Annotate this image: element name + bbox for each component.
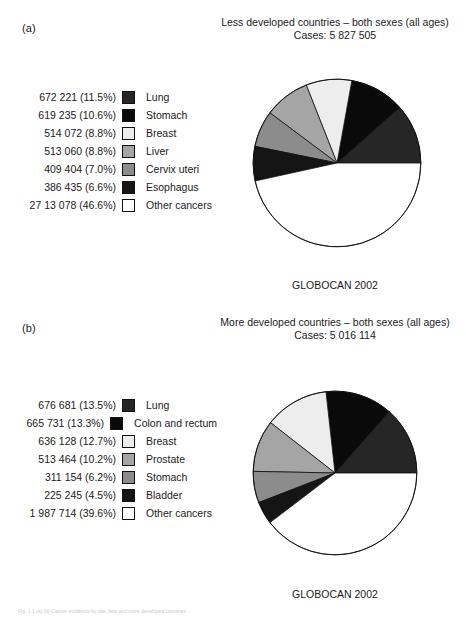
legend-swatch-icon [122, 181, 135, 194]
legend-value: 409 404 (7.0%) [12, 163, 122, 175]
legend-row: 514 072 (8.8%)Breast [12, 124, 217, 142]
legend-swatch-icon [110, 417, 123, 430]
legend-value: 636 128 (12.7%) [12, 435, 122, 447]
panel-label-b: (b) [22, 322, 36, 334]
pie-chart-a-svg [252, 78, 422, 248]
legend-value: 665 731 (13.3%) [12, 417, 110, 429]
legend-value: 514 072 (8.8%) [12, 127, 122, 139]
legend-label: Esophagus [135, 181, 199, 193]
legend-swatch-icon [122, 109, 135, 122]
legend-b: 676 681 (13.5%)Lung665 731 (13.3%)Colon … [12, 396, 217, 522]
source-label-b: GLOBOCAN 2002 [210, 588, 460, 600]
legend-swatch-icon [122, 435, 135, 448]
legend-swatch-icon [122, 453, 135, 466]
legend-row: 27 13 078 (46.6%)Other cancers [12, 196, 217, 214]
legend-value: 513 060 (8.8%) [12, 145, 122, 157]
legend-label: Breast [135, 127, 176, 139]
chart-title-a-line2: Cases: 5 827 505 [210, 29, 460, 42]
legend-value: 386 435 (6.6%) [12, 181, 122, 193]
legend-swatch-icon [122, 91, 135, 104]
legend-label: Breast [135, 435, 176, 447]
figure-caption: Fig. 1.1 (a) (b) Cancer incidence by sit… [18, 608, 458, 615]
legend-swatch-icon [122, 127, 135, 140]
panel-label-a: (a) [22, 22, 36, 34]
legend-row: 665 731 (13.3%)Colon and rectum [12, 414, 217, 432]
legend-row: 409 404 (7.0%)Cervix uteri [12, 160, 217, 178]
legend-label: Cervix uteri [135, 163, 199, 175]
pie-chart-a [252, 78, 422, 252]
chart-title-b-line1: More developed countries – both sexes (a… [220, 316, 449, 328]
chart-title-b: More developed countries – both sexes (a… [210, 316, 460, 342]
legend-row: 1 987 714 (39.6%)Other cancers [12, 504, 217, 522]
legend-value: 619 235 (10.6%) [12, 109, 122, 121]
legend-row: 513 464 (10.2%)Prostate [12, 450, 217, 468]
legend-label: Liver [135, 145, 169, 157]
legend-row: 636 128 (12.7%)Breast [12, 432, 217, 450]
chart-title-a: Less developed countries – both sexes (a… [210, 16, 460, 42]
legend-swatch-icon [122, 399, 135, 412]
legend-label: Lung [135, 399, 169, 411]
legend-row: 676 681 (13.5%)Lung [12, 396, 217, 414]
legend-swatch-icon [122, 163, 135, 176]
legend-value: 513 464 (10.2%) [12, 453, 122, 465]
legend-label: Colon and rectum [123, 417, 217, 429]
pie-chart-b-svg [252, 390, 418, 556]
legend-swatch-icon [122, 471, 135, 484]
pie-chart-b [252, 390, 418, 560]
legend-label: Other cancers [135, 199, 212, 211]
legend-row: 672 221 (11.5%)Lung [12, 88, 217, 106]
legend-swatch-icon [122, 145, 135, 158]
legend-swatch-icon [122, 507, 135, 520]
legend-value: 311 154 (6.2%) [12, 471, 122, 483]
legend-value: 225 245 (4.5%) [12, 489, 122, 501]
legend-row: 225 245 (4.5%)Bladder [12, 486, 217, 504]
panel-a: (a) Less developed countries – both sexe… [0, 0, 466, 300]
legend-label: Stomach [135, 471, 187, 483]
legend-row: 311 154 (6.2%)Stomach [12, 468, 217, 486]
source-label-a: GLOBOCAN 2002 [210, 279, 460, 291]
legend-row: 513 060 (8.8%)Liver [12, 142, 217, 160]
legend-value: 676 681 (13.5%) [12, 399, 122, 411]
chart-title-b-line2: Cases: 5 016 114 [210, 329, 460, 342]
legend-label: Lung [135, 91, 169, 103]
legend-row: 619 235 (10.6%)Stomach [12, 106, 217, 124]
legend-value: 27 13 078 (46.6%) [12, 199, 122, 211]
legend-label: Other cancers [135, 507, 212, 519]
legend-value: 1 987 714 (39.6%) [12, 507, 122, 519]
chart-title-a-line1: Less developed countries – both sexes (a… [221, 16, 449, 28]
legend-row: 386 435 (6.6%)Esophagus [12, 178, 217, 196]
legend-label: Prostate [135, 453, 185, 465]
panel-b: (b) More developed countries – both sexe… [0, 300, 466, 605]
legend-label: Bladder [135, 489, 182, 501]
legend-swatch-icon [122, 199, 135, 212]
legend-value: 672 221 (11.5%) [12, 91, 122, 103]
pie-slice [255, 163, 421, 247]
legend-label: Stomach [135, 109, 187, 121]
legend-swatch-icon [122, 489, 135, 502]
legend-a: 672 221 (11.5%)Lung619 235 (10.6%)Stomac… [12, 88, 217, 214]
